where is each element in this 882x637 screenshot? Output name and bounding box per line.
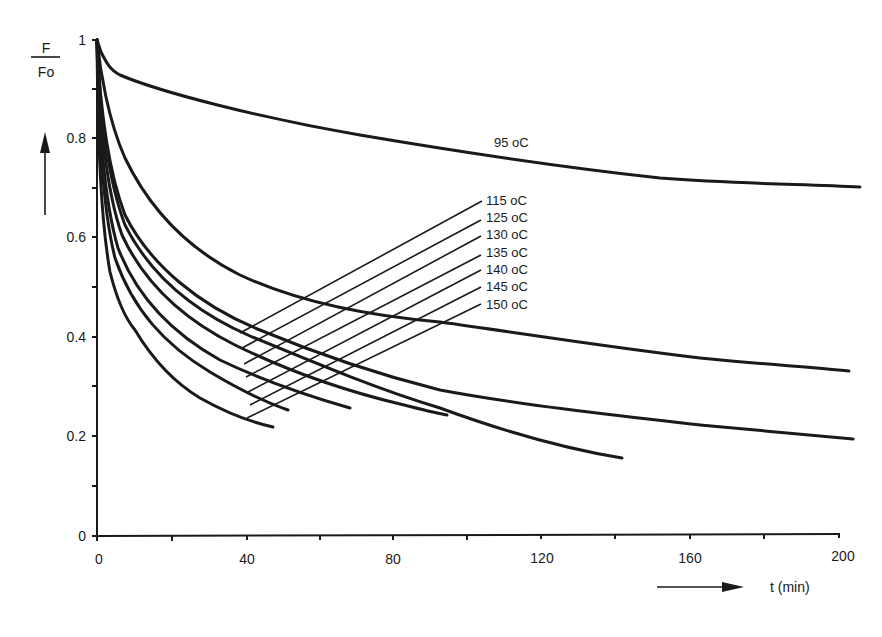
- label-140C: 140 oC: [486, 262, 528, 277]
- x-axis-title: t (min): [770, 579, 810, 595]
- y-tick-label: 0.2: [67, 428, 87, 444]
- x-tick-label: 200: [831, 548, 855, 564]
- y-axis-title-denominator: Fo: [38, 64, 55, 80]
- label-130C: 130 oC: [486, 227, 528, 242]
- label-125C: 125 oC: [486, 210, 528, 225]
- curves: [97, 40, 860, 458]
- y-tick-label: 0: [78, 528, 86, 544]
- label-95C: 95 oC: [494, 135, 529, 150]
- y-axis-title-numerator: F: [42, 40, 51, 56]
- chart: 1 0.8 0.6 0.4 0.2 0 0 40 80 120 160 200 …: [0, 0, 882, 637]
- x-tick-label: 0: [95, 551, 103, 567]
- y-tick-label: 0.6: [67, 229, 87, 245]
- x-tick-label: 160: [678, 550, 702, 566]
- label-150C: 150 oC: [486, 297, 528, 312]
- x-tick-label: 120: [530, 550, 554, 566]
- curve-130C: [97, 40, 622, 458]
- y-tick-label: 1: [78, 32, 86, 48]
- y-axis: [92, 40, 97, 537]
- label-115C: 115 oC: [486, 193, 527, 208]
- x-tick-label: 80: [385, 551, 401, 567]
- curve-95C: [97, 40, 860, 187]
- label-145C: 145 oC: [486, 279, 528, 294]
- x-axis: [97, 533, 840, 541]
- up-arrow-icon: [40, 132, 50, 215]
- label-135C: 135 oC: [486, 245, 528, 260]
- x-tick-label: 40: [239, 551, 255, 567]
- curve-135C: [97, 40, 447, 415]
- y-tick-label: 0.8: [67, 130, 87, 146]
- right-arrow-icon: [657, 582, 744, 592]
- curve-140C: [97, 40, 350, 408]
- curve-150C: [97, 40, 273, 427]
- y-tick-label: 0.4: [67, 329, 87, 345]
